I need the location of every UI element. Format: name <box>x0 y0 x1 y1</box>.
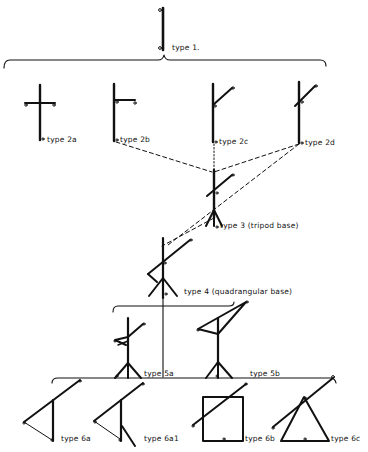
brace-type4 <box>113 302 234 312</box>
label-type-6b: type 6b <box>245 434 275 443</box>
figure-type-6a1 <box>94 383 144 446</box>
label-type-5b: type 5b <box>250 369 280 378</box>
label-type-1: type 1. <box>172 43 200 52</box>
figure-type-1 <box>159 8 163 50</box>
label-type-5a: type 5a <box>144 369 174 378</box>
figure-type-6b <box>192 383 247 441</box>
brace-type1 <box>4 55 326 68</box>
brace-type5 <box>52 378 336 383</box>
label-type-2b: type 2b <box>120 135 150 144</box>
figure-type-2c <box>213 84 234 143</box>
lineage-lines <box>116 142 299 246</box>
figure-type-6c <box>272 378 333 441</box>
label-type-6a: type 6a <box>61 434 91 443</box>
label-type-4: type 4 (quadrangular base) <box>184 287 292 296</box>
figure-type-5b <box>197 301 248 378</box>
label-type-6a1: type 6a1 <box>144 434 179 443</box>
label-type-2a: type 2a <box>47 135 77 144</box>
typology-diagram <box>0 0 368 452</box>
figure-type-2a <box>25 85 55 140</box>
label-type-3: type 3 (tripod base) <box>220 221 299 230</box>
figure-type-2d <box>295 82 317 144</box>
label-type-2d: type 2d <box>305 138 335 147</box>
figure-type-3 <box>206 170 234 228</box>
figure-type-5a <box>114 318 145 378</box>
figure-type-2b <box>114 84 136 141</box>
figure-type-6a <box>23 380 81 441</box>
label-type-6c: type 6c <box>331 434 360 443</box>
label-type-2c: type 2c <box>219 137 248 146</box>
